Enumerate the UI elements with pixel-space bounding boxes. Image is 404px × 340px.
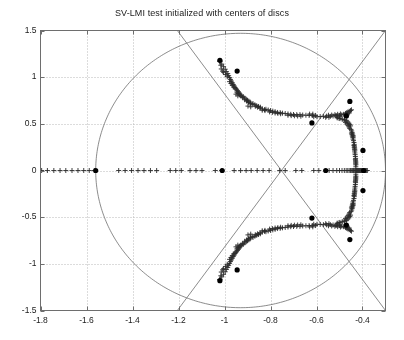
y-axis-tick-label: 0.5 [0, 118, 37, 128]
x-axis-tick-label: -1.8 [21, 315, 61, 325]
page-title: SV-LMI test initialized with centers of … [0, 8, 404, 18]
y-axis-tick-label: -0.5 [0, 211, 37, 221]
x-axis-tick-label: -0.6 [297, 315, 337, 325]
x-axis-tick-label: -0.4 [343, 315, 383, 325]
figure-panel: SV-LMI test initialized with centers of … [0, 0, 404, 340]
x-axis-tick-label: -0.8 [251, 315, 291, 325]
scatter-plot-canvas [0, 0, 404, 340]
x-axis-tick-label: -1 [205, 315, 245, 325]
x-axis-tick-label: -1.2 [159, 315, 199, 325]
y-axis-tick-label: 1.5 [0, 25, 37, 35]
y-axis-tick-label: 1 [0, 71, 37, 81]
y-axis-tick-label: -1 [0, 258, 37, 268]
x-axis-tick-label: -1.4 [113, 315, 153, 325]
x-axis-tick-label: -1.6 [67, 315, 107, 325]
y-axis-tick-label: -1.5 [0, 305, 37, 315]
y-axis-tick-label: 0 [0, 165, 37, 175]
